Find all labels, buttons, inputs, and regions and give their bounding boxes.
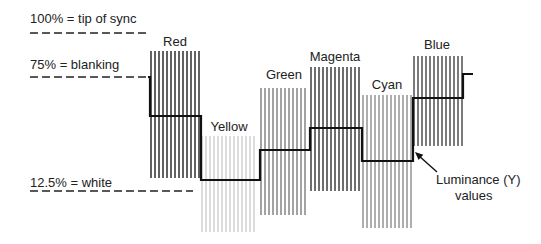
bar-green (261, 88, 305, 215)
bar-label-green: Green (266, 68, 302, 81)
bar-label-cyan: Cyan (372, 78, 402, 91)
level-label-tip-of-sync: 100% = tip of sync (30, 12, 137, 25)
arrow-icon (415, 152, 437, 172)
color-bar-diagram: 100% = tip of sync 75% = blanking 12.5% … (0, 0, 541, 244)
bar-yellow (202, 136, 254, 232)
bar-blue (414, 56, 462, 146)
bar-red (151, 51, 199, 178)
signal-plot (0, 0, 541, 244)
bar-label-magenta: Magenta (310, 50, 361, 63)
annotation-luminance: Luminance (Y) (436, 173, 521, 186)
annotation-values: values (455, 189, 493, 202)
bar-label-blue: Blue (424, 38, 450, 51)
chroma-bars (151, 51, 462, 232)
bar-label-red: Red (163, 35, 187, 48)
bar-label-yellow: Yellow (210, 120, 247, 133)
level-label-white: 12.5% = white (30, 176, 112, 189)
level-label-blanking: 75% = blanking (30, 58, 119, 71)
